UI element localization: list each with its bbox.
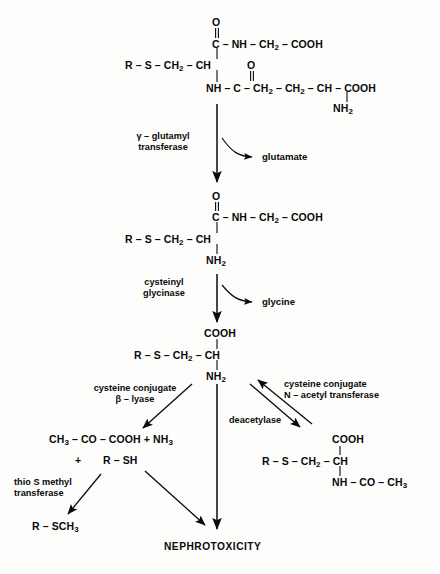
cysgly-backbone: R – S – CH2 – CH bbox=[125, 234, 211, 247]
beta-lyase-products-thiol: R – SH bbox=[103, 455, 137, 466]
cysgly-glycine-arm: C – NH – CH2 – COOH bbox=[212, 212, 323, 225]
enzyme-gamma-glutamyl-transferase: γ – glutamyl transferase bbox=[117, 131, 209, 153]
enzyme-label-line1: thio S methyl bbox=[14, 477, 72, 488]
mercapturic-backbone: R – S – CH2 – CH bbox=[262, 456, 348, 469]
cofactor-glycine: glycine bbox=[262, 296, 295, 307]
enzyme-label-line2: transferase bbox=[117, 142, 209, 153]
cysconj-carboxyl: COOH bbox=[204, 328, 236, 339]
beta-lyase-products-line1: CH3 – CO – COOH + NH3 bbox=[49, 434, 173, 447]
cysconj-backbone: R – S – CH2 – CH bbox=[134, 350, 220, 363]
enzyme-label-line2: transferase bbox=[14, 488, 72, 499]
cysgly-carbonyl-oxygen: O bbox=[212, 191, 220, 202]
enzyme-cysteine-conjugate-beta-lyase: cysteine conjugate β – lyase bbox=[77, 383, 193, 405]
enzyme-label-line2: β – lyase bbox=[77, 394, 193, 405]
endpoint-nephrotoxicity: NEPHROTOXICITY bbox=[164, 541, 261, 552]
beta-lyase-products-plus: + bbox=[75, 455, 81, 466]
enzyme-label-line2: glycinase bbox=[124, 288, 204, 299]
gsh-carbonyl-oxygen: O bbox=[212, 17, 220, 28]
mercapturic-carboxyl: COOH bbox=[332, 434, 364, 445]
enzyme-deacetylase: deacetylase bbox=[229, 415, 281, 426]
enzyme-cysteine-conjugate-n-acetyl-transferase: cysteine conjugate N – acetyl transferas… bbox=[284, 379, 379, 401]
pathway-diagram: O C – NH – CH2 – COOH R – S – CH2 – CH O… bbox=[0, 0, 440, 574]
cysconj-amino: NH2 bbox=[206, 371, 226, 384]
enzyme-cysteinyl-glycinase: cysteinyl glycinase bbox=[124, 277, 204, 299]
gsh-glycine-arm: C – NH – CH2 – COOH bbox=[212, 39, 323, 52]
gsh-glutamyl-amino: NH2 bbox=[333, 103, 353, 116]
gsh-glutamyl-oxygen: O bbox=[247, 60, 255, 71]
enzyme-label-line2: N – acetyl transferase bbox=[284, 390, 379, 401]
mercapturic-acetamido: NH – CO – CH3 bbox=[332, 477, 407, 490]
gsh-glutamyl-arm: NH – C – CH2 – CH2 – CH – COOH bbox=[206, 83, 376, 96]
enzyme-label-line1: cysteine conjugate bbox=[284, 379, 379, 390]
enzyme-label-line1: cysteine conjugate bbox=[77, 383, 193, 394]
enzyme-label-line1: cysteinyl bbox=[124, 277, 204, 288]
methylated-thiol: R – SCH3 bbox=[32, 521, 79, 534]
cysgly-amino: NH2 bbox=[206, 255, 226, 268]
cofactor-glutamate: glutamate bbox=[262, 151, 307, 162]
enzyme-thio-s-methyl-transferase: thio S methyl transferase bbox=[14, 477, 72, 499]
gsh-backbone: R – S – CH2 – CH bbox=[125, 60, 211, 73]
enzyme-label-line1: γ – glutamyl bbox=[117, 131, 209, 142]
